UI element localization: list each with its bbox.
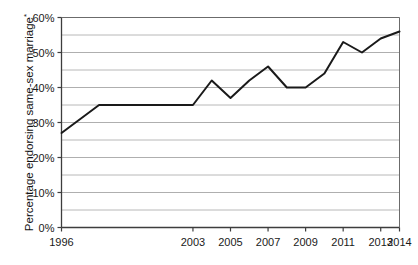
y-tick-label: 10% bbox=[32, 187, 54, 199]
y-axis-label-superscript: * bbox=[22, 14, 31, 17]
line-chart: 0%10%20%30%40%50%60% 1996200320052007200… bbox=[0, 0, 418, 265]
y-tick-label: 30% bbox=[32, 117, 54, 129]
y-axis-label: Percentage endorsing same-sex marriage* bbox=[22, 14, 35, 231]
y-tick-label: 20% bbox=[32, 152, 54, 164]
y-tick-label: 40% bbox=[32, 82, 54, 94]
y-tick-label: 50% bbox=[32, 47, 54, 59]
x-tick-label: 2007 bbox=[256, 236, 280, 248]
y-axis-label-main: Percentage endorsing same-sex marriage bbox=[23, 17, 35, 231]
chart-canvas: 0%10%20%30%40%50%60% 1996200320052007200… bbox=[0, 0, 418, 265]
x-tick-label: 2003 bbox=[181, 236, 205, 248]
x-tick-label: 2005 bbox=[218, 236, 242, 248]
x-tick-label: 2011 bbox=[331, 236, 355, 248]
y-axis-label-text: Percentage endorsing same-sex marriage* bbox=[22, 14, 35, 231]
x-tick-label: 1996 bbox=[49, 236, 73, 248]
y-tick-label: 0% bbox=[39, 222, 55, 234]
x-tick-label: 2014 bbox=[387, 236, 411, 248]
x-tick-label: 2009 bbox=[293, 236, 317, 248]
y-tick-label: 60% bbox=[32, 12, 54, 24]
